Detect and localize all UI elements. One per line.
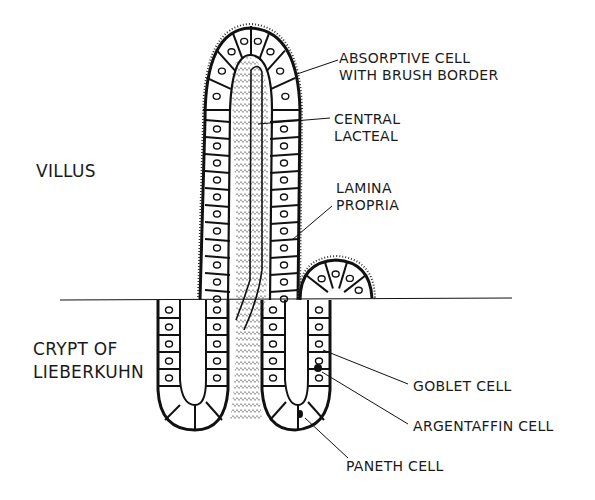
- cell-wall: [205, 256, 230, 258]
- cell-nucleus: [281, 177, 288, 183]
- paneth-cell-granule: [297, 410, 303, 418]
- cell-nucleus: [316, 375, 323, 381]
- region-label-crypt-line1: CRYPT OF: [33, 338, 118, 360]
- cell-wall: [270, 402, 286, 420]
- cell-nucleus: [166, 375, 173, 381]
- cell-nucleus: [214, 245, 221, 251]
- cell-wall: [271, 78, 295, 89]
- label-lacteal-line1: CENTRAL: [334, 111, 400, 128]
- cell-wall: [270, 222, 299, 224]
- cell-nucleus: [270, 358, 277, 364]
- cell-nucleus: [214, 228, 221, 234]
- leader-goblet: [323, 350, 408, 384]
- cell-nucleus: [214, 324, 221, 330]
- cell-wall: [259, 32, 269, 59]
- crypt-right-inner: [285, 300, 308, 405]
- cell-wall: [205, 137, 230, 139]
- cell-wall: [339, 262, 347, 289]
- label-absorptive-line2: WITH BRUSH BORDER: [339, 67, 499, 84]
- cell-nucleus: [166, 307, 173, 313]
- cell-nucleus: [346, 275, 353, 281]
- cell-wall: [205, 171, 230, 173]
- cell-nucleus: [281, 262, 288, 268]
- cell-wall: [205, 120, 230, 122]
- cell-nucleus: [316, 307, 323, 313]
- cell-nucleus: [267, 49, 274, 55]
- cell-nucleus: [281, 228, 288, 234]
- cell-nucleus: [270, 375, 277, 381]
- cell-nucleus: [270, 341, 277, 347]
- cell-nucleus: [214, 160, 221, 166]
- cell-nucleus: [281, 279, 288, 285]
- crypt-left-inner: [180, 300, 206, 405]
- cell-wall: [205, 154, 230, 156]
- cell-nucleus: [277, 68, 284, 74]
- cell-wall: [205, 222, 230, 224]
- label-lamina-line1: LAMINA: [336, 180, 392, 197]
- cell-wall: [270, 290, 299, 292]
- leader-argentaffin: [322, 372, 408, 424]
- cell-wall: [270, 239, 299, 241]
- cell-nucleus: [218, 68, 225, 74]
- cell-wall: [205, 273, 230, 275]
- cell-wall: [205, 188, 230, 190]
- label-goblet-cell: GOBLET CELL: [413, 378, 512, 395]
- cell-wall: [270, 256, 299, 258]
- cell-nucleus: [281, 143, 288, 149]
- cell-nucleus: [166, 324, 173, 330]
- cell-nucleus: [270, 324, 277, 330]
- region-label-crypt-line2: LIEBERKUHN: [33, 361, 144, 383]
- cell-nucleus: [332, 271, 339, 277]
- cell-wall: [233, 32, 243, 59]
- cell-nucleus: [214, 177, 221, 183]
- cell-nucleus: [281, 211, 288, 217]
- cell-wall: [270, 273, 299, 275]
- cell-wall: [270, 171, 299, 173]
- cell-wall: [270, 154, 299, 156]
- cell-wall: [205, 239, 230, 241]
- cell-wall: [205, 290, 230, 292]
- region-label-villus: VILLUS: [36, 160, 96, 182]
- label-absorptive-line1: ABSORPTIVE CELL: [339, 50, 470, 67]
- cell-nucleus: [228, 49, 235, 55]
- label-paneth-cell: PANETH CELL: [346, 458, 444, 475]
- cell-wall: [207, 78, 231, 89]
- cell-wall: [270, 205, 299, 207]
- leader-lacteal: [258, 118, 330, 124]
- crypt-left-outline: [158, 300, 228, 430]
- cell-nucleus: [214, 126, 221, 132]
- cell-nucleus: [316, 358, 323, 364]
- cell-nucleus: [214, 143, 221, 149]
- label-lacteal-line2: LACTEAL: [334, 128, 398, 145]
- cell-nucleus: [214, 262, 221, 268]
- cell-nucleus: [214, 307, 221, 313]
- leader-absorptive: [297, 60, 338, 74]
- cell-nucleus: [214, 375, 221, 381]
- cell-nucleus: [214, 279, 221, 285]
- argentaffin-cell-granule: [314, 364, 322, 372]
- cell-nucleus: [281, 194, 288, 200]
- cell-nucleus: [213, 93, 220, 99]
- cell-wall: [270, 188, 299, 190]
- cell-wall: [270, 137, 299, 139]
- cell-wall: [205, 205, 230, 207]
- cell-nucleus: [281, 245, 288, 251]
- cell-nucleus: [214, 358, 221, 364]
- cell-nucleus: [281, 160, 288, 166]
- cell-nucleus: [166, 358, 173, 364]
- cell-nucleus: [270, 307, 277, 313]
- label-lamina-line2: PROPRIA: [336, 197, 399, 214]
- cell-nucleus: [316, 324, 323, 330]
- cell-nucleus: [318, 276, 325, 282]
- cell-nucleus: [282, 93, 289, 99]
- cell-nucleus: [214, 194, 221, 200]
- cell-nucleus: [281, 126, 288, 132]
- cell-nucleus: [166, 341, 173, 347]
- cell-nucleus: [241, 38, 248, 44]
- villus-crypt-boundary-line: [60, 298, 512, 300]
- cell-nucleus: [316, 341, 323, 347]
- cell-nucleus: [355, 287, 362, 293]
- label-argentaffin-cell: ARGENTAFFIN CELL: [413, 418, 554, 435]
- cell-nucleus: [214, 341, 221, 347]
- cell-nucleus: [254, 38, 261, 44]
